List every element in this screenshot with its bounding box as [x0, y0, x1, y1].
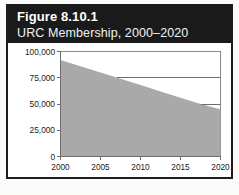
y-tick-label-50000: 50,000: [30, 99, 56, 109]
area-chart: 025,00050,00075,000100,000 2000200520102…: [8, 43, 231, 177]
area-series-urc-membership: [61, 60, 221, 157]
y-tick-label-25000: 25,000: [30, 125, 56, 135]
y-tick-label-0: 0: [50, 152, 55, 162]
x-tick-label-2010: 2010: [131, 162, 150, 172]
figure-root: Figure 8.10.1 URC Membership, 2000–2020 …: [0, 0, 239, 195]
figure-header: Figure 8.10.1 URC Membership, 2000–2020: [8, 6, 231, 43]
x-tick-label-2000: 2000: [51, 162, 70, 172]
figure-number-label: Figure 8.10.1: [17, 9, 231, 25]
y-axis-tick-labels: 025,00050,00075,000100,000: [25, 47, 55, 162]
y-tick-label-75000: 75,000: [30, 73, 56, 83]
figure-subtitle: URC Membership, 2000–2020: [17, 25, 231, 41]
x-tick-label-2015: 2015: [171, 162, 190, 172]
x-axis-ticks: [61, 157, 221, 161]
x-tick-label-2005: 2005: [91, 162, 110, 172]
figure-box: Figure 8.10.1 URC Membership, 2000–2020 …: [6, 4, 233, 179]
y-axis-ticks: [57, 52, 61, 157]
x-tick-label-2020: 2020: [211, 162, 230, 172]
chart-plot-container: 025,00050,00075,000100,000 2000200520102…: [8, 43, 231, 177]
area-series-path: [61, 60, 221, 157]
x-axis-tick-labels: 20002005201020152020: [51, 162, 230, 172]
y-tick-label-100000: 100,000: [25, 47, 55, 57]
